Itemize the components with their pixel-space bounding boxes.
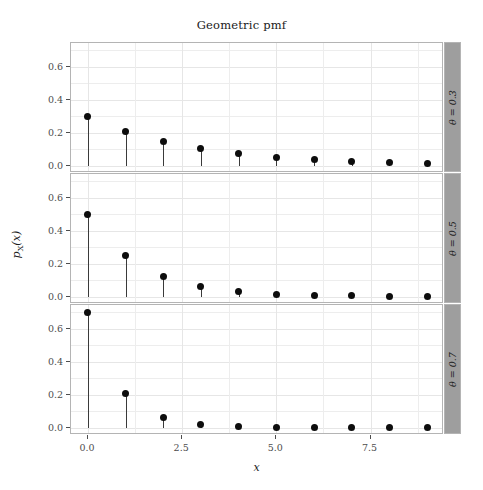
gridline-vertical-minor bbox=[418, 305, 419, 433]
panel-plot-area bbox=[71, 305, 442, 433]
y-axis-tick-label: 0.0 bbox=[30, 421, 63, 432]
gridline-vertical-minor bbox=[323, 43, 324, 171]
x-axis-tick-label: 0.0 bbox=[79, 442, 94, 453]
stem-line bbox=[88, 214, 89, 296]
data-point bbox=[311, 292, 318, 299]
y-axis-tick-mark bbox=[66, 66, 70, 67]
gridline-vertical-major bbox=[276, 305, 277, 433]
gridline-vertical-major bbox=[371, 174, 372, 302]
gridline-horizontal-minor bbox=[71, 280, 442, 281]
facet-panel bbox=[70, 304, 443, 434]
data-point bbox=[122, 128, 129, 135]
stem-line bbox=[126, 393, 127, 428]
y-axis-tick-label: 0.6 bbox=[30, 60, 63, 71]
data-point bbox=[122, 252, 129, 259]
gridline-horizontal-major bbox=[71, 166, 442, 167]
y-axis-title: pX(x) bbox=[9, 0, 27, 490]
data-point bbox=[235, 150, 242, 157]
y-axis-tick-mark bbox=[66, 296, 70, 297]
panel-plot-area bbox=[71, 43, 442, 171]
facet-panel bbox=[70, 173, 443, 303]
gridline-horizontal-major bbox=[71, 100, 442, 101]
stem-line bbox=[163, 141, 164, 165]
y-axis-tick-mark bbox=[66, 165, 70, 166]
data-point bbox=[235, 288, 242, 295]
gridline-vertical-minor bbox=[323, 174, 324, 302]
gridline-vertical-minor bbox=[323, 305, 324, 433]
gridline-vertical-minor bbox=[418, 174, 419, 302]
gridline-vertical-major bbox=[276, 174, 277, 302]
gridline-vertical-minor bbox=[135, 305, 136, 433]
data-point bbox=[160, 138, 167, 145]
stem-line bbox=[88, 116, 89, 165]
y-axis-tick-mark bbox=[66, 427, 70, 428]
y-axis-tick-mark bbox=[66, 230, 70, 231]
y-axis-tick-label: 0.2 bbox=[30, 388, 63, 399]
y-axis-tick-mark bbox=[66, 394, 70, 395]
gridline-vertical-major bbox=[182, 174, 183, 302]
gridline-horizontal-minor bbox=[71, 214, 442, 215]
x-axis-tick-mark bbox=[275, 435, 276, 439]
stem-line bbox=[88, 312, 89, 427]
facet-strip-text: θ = 0.3 bbox=[447, 90, 458, 125]
x-axis-tick-mark bbox=[370, 435, 371, 439]
data-point bbox=[160, 414, 167, 421]
y-axis-tick-label: 0.2 bbox=[30, 126, 63, 137]
y-axis-tick-label: 0.6 bbox=[30, 191, 63, 202]
gridline-vertical-major bbox=[276, 43, 277, 171]
y-axis-tick-label: 0.2 bbox=[30, 257, 63, 268]
gridline-horizontal-minor bbox=[71, 181, 442, 182]
data-point bbox=[273, 291, 280, 298]
data-point bbox=[424, 160, 431, 167]
data-point bbox=[84, 211, 91, 218]
data-point bbox=[311, 424, 318, 431]
y-axis-tick-mark bbox=[66, 132, 70, 133]
gridline-horizontal-minor bbox=[71, 50, 442, 51]
data-point bbox=[235, 423, 242, 430]
gridline-vertical-minor bbox=[229, 305, 230, 433]
y-axis-tick-label: 0.0 bbox=[30, 290, 63, 301]
gridline-horizontal-major bbox=[71, 67, 442, 68]
stem-line bbox=[126, 255, 127, 296]
gridline-vertical-major bbox=[182, 305, 183, 433]
y-axis-tick-mark bbox=[66, 99, 70, 100]
y-axis-tick-mark bbox=[66, 197, 70, 198]
facet-strip-label: θ = 0.7 bbox=[444, 304, 461, 434]
y-axis-tick-label: 0.0 bbox=[30, 159, 63, 170]
y-axis-tick-mark bbox=[66, 328, 70, 329]
y-axis-tick-label: 0.6 bbox=[30, 322, 63, 333]
y-axis-tick-label: 0.4 bbox=[30, 93, 63, 104]
data-point bbox=[348, 158, 355, 165]
data-point bbox=[386, 424, 393, 431]
x-axis-tick-mark bbox=[87, 435, 88, 439]
x-axis-tick-label: 7.5 bbox=[362, 442, 377, 453]
data-point bbox=[84, 113, 91, 120]
chart-root: Geometric pmf pX(x) θ = 0.3θ = 0.5θ = 0.… bbox=[0, 0, 483, 490]
y-axis-title-text: pX(x) bbox=[10, 231, 25, 259]
data-point bbox=[197, 283, 204, 290]
data-point bbox=[348, 292, 355, 299]
gridline-vertical-major bbox=[371, 305, 372, 433]
y-axis-tick-mark bbox=[66, 361, 70, 362]
gridline-horizontal-major bbox=[71, 264, 442, 265]
gridline-horizontal-minor bbox=[71, 247, 442, 248]
gridline-vertical-major bbox=[182, 43, 183, 171]
gridline-horizontal-minor bbox=[71, 378, 442, 379]
data-point bbox=[424, 293, 431, 300]
data-point bbox=[273, 154, 280, 161]
data-point bbox=[386, 293, 393, 300]
x-axis-tick-label: 5.0 bbox=[268, 442, 283, 453]
gridline-vertical-minor bbox=[135, 174, 136, 302]
facet-panel bbox=[70, 42, 443, 172]
gridline-vertical-major bbox=[371, 43, 372, 171]
x-axis-title: x bbox=[70, 461, 443, 474]
gridline-horizontal-major bbox=[71, 329, 442, 330]
panel-plot-area bbox=[71, 174, 442, 302]
gridline-horizontal-major bbox=[71, 198, 442, 199]
data-point bbox=[84, 309, 91, 316]
gridline-horizontal-minor bbox=[71, 116, 442, 117]
y-axis-tick-label: 0.4 bbox=[30, 224, 63, 235]
data-point bbox=[122, 390, 129, 397]
gridline-horizontal-minor bbox=[71, 312, 442, 313]
chart-title: Geometric pmf bbox=[0, 18, 483, 32]
